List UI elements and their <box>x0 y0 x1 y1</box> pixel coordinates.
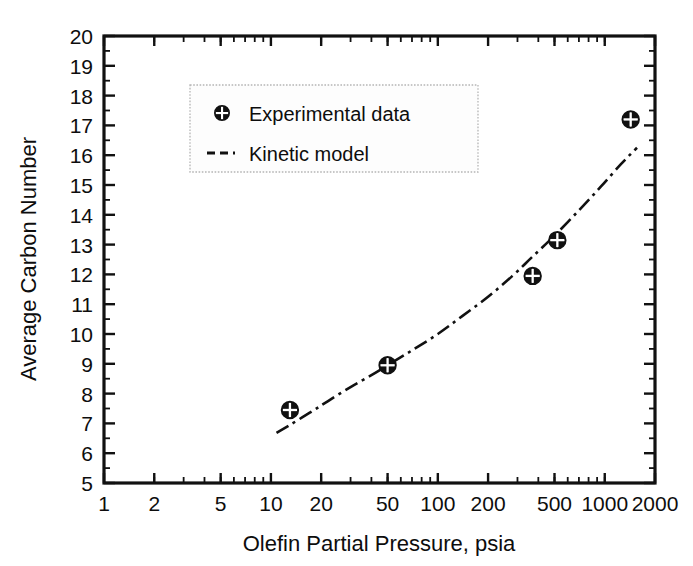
legend-label-experimental-data: Experimental data <box>249 103 411 125</box>
x-tick-label: 2000 <box>632 492 679 515</box>
x-tick-label: 2 <box>148 492 160 515</box>
y-tick-label: 16 <box>70 144 93 167</box>
x-tick-label: 1000 <box>581 492 628 515</box>
y-tick-label: 5 <box>81 472 93 495</box>
y-tick-label: 15 <box>70 174 93 197</box>
x-tick-label: 500 <box>537 492 572 515</box>
y-tick-label: 20 <box>70 25 93 48</box>
data-point-marker <box>379 357 395 373</box>
y-tick-label: 12 <box>70 263 93 286</box>
legend-label-kinetic-model: Kinetic model <box>249 143 369 165</box>
y-tick-label: 11 <box>71 293 93 316</box>
x-axis-title: Olefin Partial Pressure, psia <box>243 531 516 556</box>
x-tick-label: 200 <box>471 492 506 515</box>
y-tick-label: 18 <box>70 85 93 108</box>
chart-canvas: 567891011121314151617181920 125102050100… <box>0 0 693 566</box>
x-tick-label: 5 <box>215 492 227 515</box>
legend-marker-experimental <box>215 106 229 120</box>
y-axis-title: Average Carbon Number <box>16 137 41 381</box>
data-point-marker <box>622 111 638 127</box>
y-tick-label: 10 <box>70 323 93 346</box>
kinetic-model-line <box>277 148 637 433</box>
y-tick-label: 9 <box>81 353 93 376</box>
data-point-marker <box>524 268 540 284</box>
y-tick-label: 8 <box>81 383 93 406</box>
y-tick-label: 14 <box>70 204 94 227</box>
y-tick-label: 13 <box>70 234 93 257</box>
y-tick-label: 19 <box>70 55 93 78</box>
x-tick-label: 50 <box>376 492 399 515</box>
data-point-marker <box>282 402 298 418</box>
chart-figure: 567891011121314151617181920 125102050100… <box>0 0 693 566</box>
x-tick-label: 100 <box>420 492 455 515</box>
y-tick-label: 7 <box>81 412 93 435</box>
data-point-marker <box>549 232 565 248</box>
x-tick-label: 10 <box>259 492 282 515</box>
x-tick-label: 1 <box>98 492 110 515</box>
y-tick-label: 17 <box>70 114 93 137</box>
x-tick-label: 20 <box>309 492 332 515</box>
chart-legend: Experimental data Kinetic model <box>190 85 478 172</box>
y-axis-tick-labels: 567891011121314151617181920 <box>70 25 94 495</box>
x-axis-tick-labels: 12510205010020050010002000 <box>98 492 678 515</box>
y-tick-label: 6 <box>81 442 93 465</box>
